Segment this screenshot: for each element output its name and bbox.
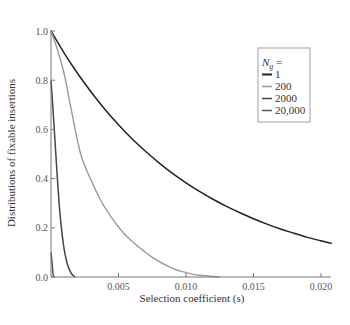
y-tick-label: 0.6 [36,124,49,135]
x-tick-label: 0.005 [107,281,130,292]
legend-label: 20,000 [275,104,306,116]
x-tick-label: 0.020 [310,281,333,292]
y-tick-label: 0.4 [36,173,49,184]
y-axis-title: Distributions of fixable insertions [5,79,17,227]
x-axis-title: Selection coefficient (s) [140,292,245,305]
series-line-ng-200 [51,31,220,277]
chart: 0.0050.0100.0150.020 0.00.20.40.60.81.0 … [0,0,350,325]
x-tick-label: 0.015 [242,281,265,292]
y-tick-label: 0.8 [36,75,49,86]
y-tick-label: 1.0 [36,26,49,37]
legend-title-suffix: = [273,56,282,68]
legend-label: 2000 [275,92,298,104]
legend-label: 200 [275,80,292,92]
x-tick-label: 0.010 [175,281,198,292]
legend-label: 1 [275,68,281,80]
y-tick-label: 0.2 [36,222,49,233]
legend: Ng = 1200200020,000 [258,48,310,122]
y-ticks: 0.00.20.40.60.81.0 [36,26,56,283]
y-tick-label: 0.0 [36,272,49,283]
x-ticks: 0.0050.0100.0150.020 [107,273,332,292]
